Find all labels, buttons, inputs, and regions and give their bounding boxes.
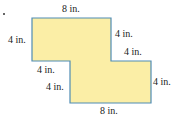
label-left-step-width: 4 in. xyxy=(37,65,55,75)
label-top-width: 8 in. xyxy=(62,4,80,14)
label-right-upper-height: 4 in. xyxy=(115,29,133,39)
label-bottom-width: 8 in. xyxy=(100,106,118,116)
label-left-height: 4 in. xyxy=(8,35,26,45)
label-right-lower-height: 4 in. xyxy=(153,77,171,87)
composite-shape xyxy=(0,0,177,122)
label-left-lower-height: 4 in. xyxy=(46,82,64,92)
label-right-step-width: 4 in. xyxy=(124,47,142,57)
